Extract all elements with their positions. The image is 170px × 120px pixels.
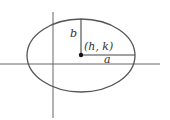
ellipse-diagram: b (h, k) a	[0, 0, 170, 120]
label-a: a	[104, 53, 111, 66]
center-point	[79, 53, 83, 57]
label-b: b	[70, 27, 77, 40]
label-center: (h, k)	[84, 40, 113, 53]
